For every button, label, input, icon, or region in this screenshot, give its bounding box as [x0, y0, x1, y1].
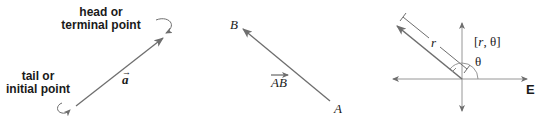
point-B-label: B	[230, 17, 238, 32]
polar-coordinate-label: [r, θ]	[474, 34, 500, 49]
vector-diagram: head or terminal point tail or initial p…	[0, 0, 542, 123]
magnitude-tick-top	[400, 13, 406, 21]
head-label-line1: head or	[79, 5, 123, 19]
coord-rest: , θ]	[483, 34, 500, 49]
head-label-line2: terminal point	[61, 18, 140, 32]
vector-a-accent: →	[122, 67, 131, 77]
vector-AB-arrow	[243, 29, 330, 101]
magnitude-tick-bottom	[464, 65, 470, 73]
panel-vector-AB: B A AB	[230, 17, 342, 116]
magnitude-label: r	[431, 35, 437, 50]
theta-arc	[450, 63, 478, 79]
vector-angle-mark	[452, 68, 456, 72]
vector-a-arrow	[76, 38, 163, 106]
tail-label-line2: initial point	[6, 82, 70, 96]
theta-label: θ	[475, 54, 481, 69]
tail-label-line1: tail or	[22, 69, 55, 83]
axis-label-E: E	[526, 82, 535, 97]
tail-pointer-curve-icon	[58, 103, 71, 113]
panel-vector-a: head or terminal point tail or initial p…	[6, 5, 171, 113]
vector-AB-label: AB	[270, 75, 287, 90]
point-A-label: A	[333, 101, 342, 116]
panel-polar-vector: r θ [r, θ] E	[393, 13, 535, 111]
head-pointer-curve-icon	[156, 19, 171, 33]
